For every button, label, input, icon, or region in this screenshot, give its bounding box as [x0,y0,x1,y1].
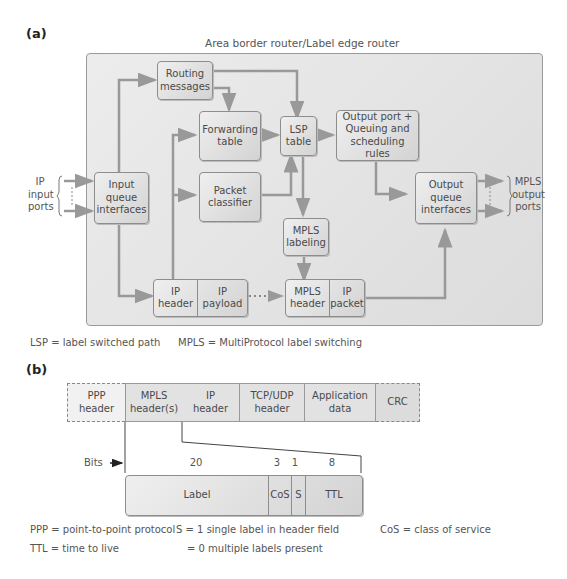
frame-field-mpls: MPLS header(s) [125,383,183,422]
mpls-header-format: Label CoS S TTL [125,475,363,516]
output-port-rules-box: Output port + Queuing and scheduling rul… [336,110,419,161]
legend-s0: = 0 multiple labels present [187,543,323,556]
legend-mpls: MPLS = MultiProtocol label switching [178,337,362,350]
lsp-table-box: LSP table [280,116,317,156]
legend-lsp: LSP = label switched path [30,337,160,350]
bits-cos: 3 [272,457,282,470]
frame-field-ip: IP header [182,383,240,422]
ip-packet-segment: IP packet [330,280,364,316]
mpls-field-label: Label [126,476,269,515]
frame-field-crc: CRC [376,383,420,422]
routing-messages-box: Routing messages [157,61,213,100]
bits-label: Bits [84,457,103,470]
mpls-header-segment: MPLS header [286,280,330,316]
frame-field-ppp: PPP header [67,383,125,422]
ip-header-segment: IP header [154,280,198,316]
input-queue-box: Input queue interfaces [94,172,149,224]
mpls-labeling-box: MPLS labeling [283,218,329,256]
mpls-packet-box: MPLS header IP packet [285,279,365,317]
bits-ttl: 8 [327,457,337,470]
bits-s: 1 [290,457,300,470]
mpls-field-cos: CoS [269,476,292,515]
legend-s1: S = 1 single label in header field [176,524,339,537]
frame-field-tcp-udp: TCP/UDP header [240,383,305,422]
legend-ppp: PPP = point-to-point protocol [30,524,175,537]
ip-payload-segment: IP payload [198,280,247,316]
mpls-output-ports-label: MPLS output ports [512,176,544,214]
frame-field-app-data: Application data [305,383,376,422]
packet-classifier-box: Packet classifier [199,172,261,222]
mpls-field-s: S [292,476,306,515]
output-queue-box: Output queue interfaces [415,172,477,224]
legend-cos: CoS = class of service [380,524,491,537]
part-b-tag: (b) [26,362,47,377]
ip-datagram-box: IP header IP payload [153,279,248,317]
ip-input-ports-label: IP input ports [28,176,52,214]
bits-label-label: 20 [186,457,206,470]
mpls-field-ttl: TTL [306,476,362,515]
legend-ttl: TTL = time to live [30,543,119,556]
forwarding-table-box: Forwarding table [199,111,261,161]
